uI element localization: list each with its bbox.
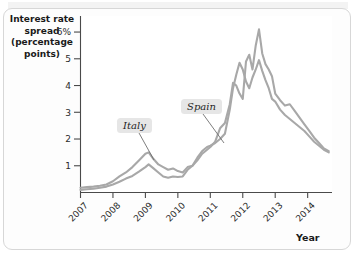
plot-area: 123456% 20072008200920102011201220132014…	[0, 0, 355, 260]
y-tick-label: 4	[65, 81, 71, 91]
y-axis-ticks: 123456%	[57, 27, 81, 171]
x-tick-label: 2008	[99, 200, 122, 223]
x-axis-ticks: 20072008200920102011201220132014	[67, 192, 318, 224]
y-tick-label: 6%	[57, 27, 72, 37]
x-tick-label: 2007	[67, 200, 90, 223]
callout-label-italy: Italy	[122, 120, 146, 131]
callout-label-spain: Spain	[187, 101, 216, 112]
y-tick-label: 3	[65, 108, 71, 118]
x-tick-label: 2013	[261, 200, 284, 223]
x-tick-label: 2011	[196, 200, 219, 223]
chart-svg: 123456% 20072008200920102011201220132014…	[0, 0, 355, 260]
y-tick-label: 2	[65, 134, 71, 144]
x-tick-label: 2014	[294, 200, 317, 223]
y-tick-label: 1	[65, 161, 71, 171]
figure-root: and the 2004 election Interest rate spre…	[0, 0, 355, 260]
y-tick-label: 5	[65, 54, 71, 64]
x-tick-label: 2009	[132, 200, 155, 223]
x-tick-label: 2010	[164, 200, 187, 223]
x-tick-label: 2012	[229, 200, 252, 223]
